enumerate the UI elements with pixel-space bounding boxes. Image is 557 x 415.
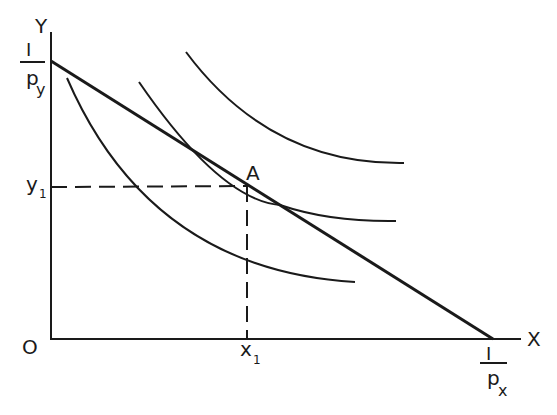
y-axis-label: Y — [34, 14, 48, 38]
y-intercept-numerator: I — [26, 39, 31, 60]
x1-subscript: 1 — [253, 353, 261, 367]
y1-label: y — [26, 172, 38, 196]
x1-label: x — [240, 337, 252, 361]
indifference-curve-diagram: Y X O I p y I p x A y 1 x 1 — [0, 0, 557, 415]
y-intercept-subscript: y — [36, 80, 45, 99]
x-intercept-subscript: x — [498, 381, 507, 400]
equilibrium-point-label: A — [246, 161, 260, 185]
x-intercept-numerator: I — [486, 343, 491, 364]
indifference-curve-tangent — [139, 82, 396, 221]
origin-label: O — [22, 335, 38, 359]
indifference-curve-higher — [186, 52, 404, 163]
y1-dashed-line — [51, 186, 247, 187]
indifference-curve-lower — [67, 78, 355, 282]
budget-line — [51, 61, 493, 339]
y1-subscript: 1 — [39, 187, 47, 201]
x-axis-label: X — [527, 327, 541, 351]
